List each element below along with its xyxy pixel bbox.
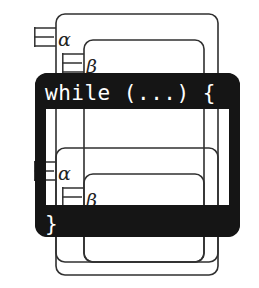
exists-icon-beta-outer [62,53,84,73]
while-footer-label: } [45,212,58,236]
exists-icon-beta-inner [62,187,84,207]
scope-label-alpha-inner: α [58,162,71,184]
while-header-label: while (...) { [45,81,216,105]
exists-icon-alpha-outer [34,27,56,47]
scope-diagram-figure: α β α [0,0,259,288]
diagram-canvas: α β α [0,0,259,288]
scope-label-alpha-outer: α [58,28,71,50]
while-footer-bar [35,205,240,237]
while-block: while (...) { } [35,73,240,237]
